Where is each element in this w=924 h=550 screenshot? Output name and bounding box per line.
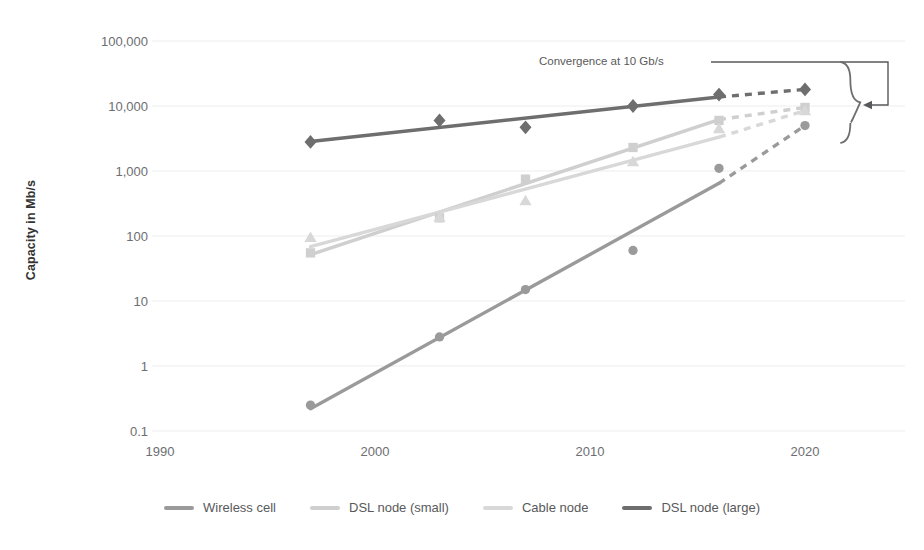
marker-circle [628,246,637,255]
y-tick-label-10,000: 10,000 [64,99,148,114]
y-tick-label-1: 1 [64,359,148,374]
legend-label: Cable node [522,500,589,515]
projection-dsl-node-small [719,107,805,119]
y-tick-label-100,000: 100,000 [64,34,148,49]
marker-circle [435,332,444,341]
x-tick-label-2010: 2010 [576,444,605,459]
legend-item-dsl-node-large[interactable]: DSL node (large) [622,500,760,515]
marker-square [306,248,315,257]
marker-diamond [627,99,639,113]
marker-square [628,143,637,152]
legend-swatch-icon [164,506,194,510]
y-axis-ticks: 0.11101001,00010,000100,000 [0,0,148,550]
trendline-dsl-node-small [311,120,720,255]
marker-diamond [520,120,532,134]
legend-item-cable-node[interactable]: Cable node [483,500,589,515]
annotation-leader-line [711,62,888,105]
x-tick-label-2020: 2020 [791,444,820,459]
y-tick-label-0.1: 0.1 [64,424,148,439]
trendline-dsl-node-large [311,97,720,142]
legend-label: DSL node (small) [349,500,449,515]
legend-label: DSL node (large) [661,500,760,515]
x-tick-label-1990: 1990 [146,444,175,459]
chart-legend: Wireless cellDSL node (small)Cable nodeD… [0,500,924,515]
marker-triangle [519,195,531,206]
annotation-arrowhead-icon [863,101,872,109]
convergence-annotation-label: Convergence at 10 Gb/s [539,55,664,67]
legend-swatch-icon [483,506,513,510]
y-tick-label-100: 100 [64,229,148,244]
legend-swatch-icon [310,506,340,510]
marker-circle [521,285,530,294]
legend-item-dsl-node-small[interactable]: DSL node (small) [310,500,449,515]
legend-swatch-icon [622,506,652,510]
marker-diamond [799,83,811,97]
marker-circle [800,121,809,130]
marker-circle [306,400,315,409]
projection-dsl-node-large [719,89,805,97]
convergence-brace-icon [841,62,860,143]
legend-label: Wireless cell [203,500,276,515]
marker-diamond [713,88,725,102]
legend-item-wireless-cell[interactable]: Wireless cell [164,500,276,515]
x-tick-label-2000: 2000 [361,444,390,459]
capacity-convergence-chart: Capacity in Mb/s 0.11101001,00010,000100… [0,0,924,550]
marker-circle [714,164,723,173]
trendline-cable-node [311,137,720,246]
y-tick-label-1,000: 1,000 [64,164,148,179]
marker-square [521,174,530,183]
marker-triangle [304,232,316,243]
trendline-wireless-cell [311,183,720,408]
y-tick-label-10: 10 [64,294,148,309]
marker-diamond [305,135,317,149]
